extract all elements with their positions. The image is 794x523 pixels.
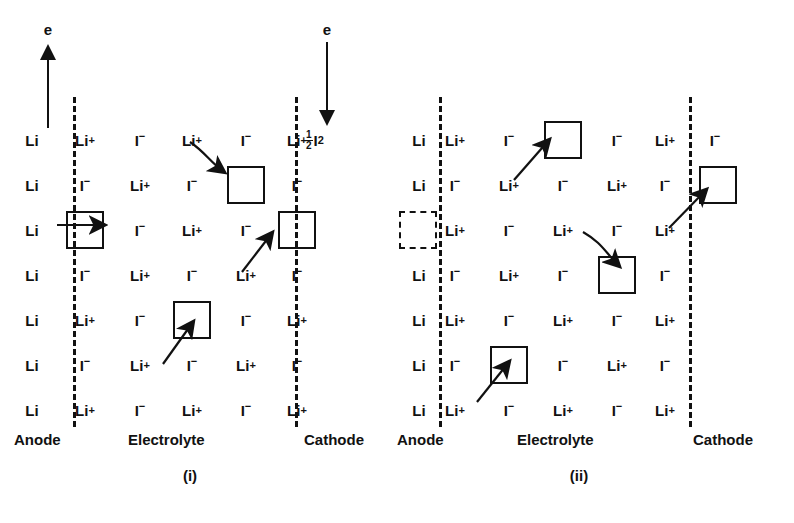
iodide-ion: I− xyxy=(595,388,639,432)
lithium-ion: Li+ xyxy=(433,208,477,252)
anode-lithium-atom: Li xyxy=(10,343,54,387)
lithium-ion: Li+ xyxy=(118,343,162,387)
panel-caption-i: (i) xyxy=(160,468,220,483)
iodide-ion: I− xyxy=(643,343,687,387)
anode-lithium-atom: Li xyxy=(10,298,54,342)
anode-vacancy-box xyxy=(399,211,437,249)
iodide-ion: I− xyxy=(118,118,162,162)
lithium-ion: Li+ xyxy=(595,343,639,387)
lithium-ion: Li+ xyxy=(487,253,531,297)
iodide-ion: I− xyxy=(224,208,268,252)
iodide-ion: I− xyxy=(487,388,531,432)
cathode-iodide-ion: I− xyxy=(693,118,737,162)
electrolyte-cathode-boundary-ii xyxy=(689,97,692,427)
lithium-ion: Li+ xyxy=(541,298,585,342)
lithium-ion: Li+ xyxy=(118,163,162,207)
iodide-ion: I− xyxy=(541,253,585,297)
anode-lithium-atom: Li xyxy=(10,118,54,162)
anode-lithium-atom: Li xyxy=(10,388,54,432)
lithium-ion: Li+ xyxy=(487,163,531,207)
iodide-ion: I− xyxy=(595,298,639,342)
electron-arrow-anode-i: e xyxy=(28,22,68,132)
lithium-ion: Li+ xyxy=(170,208,214,252)
lithium-ion: Li+ xyxy=(275,388,319,432)
anode-lithium-atom: Li xyxy=(10,253,54,297)
iodide-ion: I− xyxy=(63,163,107,207)
cathode-vacancy-box xyxy=(699,166,737,204)
vacancy-box xyxy=(278,211,316,249)
anode-lithium-atom: Li xyxy=(10,208,54,252)
region-label-cathode-ii: Cathode xyxy=(693,432,753,447)
region-label-anode-ii: Anode xyxy=(397,432,444,447)
electron-label-anode-i: e xyxy=(28,22,68,37)
region-label-cathode-i: Cathode xyxy=(304,432,364,447)
lithium-ion: Li+ xyxy=(275,298,319,342)
iodide-ion: I− xyxy=(224,298,268,342)
lithium-ion: Li+ xyxy=(224,253,268,297)
region-label-electrolyte-i: Electrolyte xyxy=(128,432,205,447)
lithium-ion: Li+ xyxy=(643,118,687,162)
iodide-ion: I− xyxy=(118,208,162,252)
iodide-ion: I− xyxy=(118,388,162,432)
iodide-ion: I− xyxy=(595,208,639,252)
lithium-ion: Li+ xyxy=(170,388,214,432)
lithium-ion: Li+ xyxy=(643,298,687,342)
iodide-ion: I− xyxy=(487,298,531,342)
panel-caption-ii: (ii) xyxy=(549,468,609,483)
lithium-ion: Li+ xyxy=(63,388,107,432)
iodide-ion: I− xyxy=(170,253,214,297)
lithium-ion: Li+ xyxy=(595,163,639,207)
panel-diagram-i: e e LiLi+I−Li+I−Li+LiI−Li+I−I−LiI−Li+I−L… xyxy=(0,0,397,523)
iodide-ion: I− xyxy=(224,118,268,162)
lithium-ion: Li+ xyxy=(118,253,162,297)
iodide-ion: I− xyxy=(170,163,214,207)
lithium-ion: Li+ xyxy=(63,118,107,162)
lithium-ion: Li+ xyxy=(643,208,687,252)
iodide-ion: I− xyxy=(63,253,107,297)
iodide-ion: I− xyxy=(170,343,214,387)
iodide-ion: I− xyxy=(643,163,687,207)
iodide-ion: I− xyxy=(275,253,319,297)
lithium-ion: Li+ xyxy=(63,298,107,342)
iodide-ion: I− xyxy=(275,163,319,207)
vacancy-box xyxy=(490,346,528,384)
iodide-ion: I− xyxy=(643,253,687,297)
lithium-ion: Li+ xyxy=(433,388,477,432)
lithium-ion: Li+ xyxy=(170,118,214,162)
region-label-electrolyte-ii: Electrolyte xyxy=(517,432,594,447)
iodide-ion: I− xyxy=(541,163,585,207)
electron-label-cathode-i: e xyxy=(307,22,347,37)
lithium-ion: Li+ xyxy=(433,298,477,342)
vacancy-box xyxy=(227,166,265,204)
lithium-ion: Li+ xyxy=(541,208,585,252)
iodide-ion: I− xyxy=(541,343,585,387)
vacancy-box xyxy=(544,121,582,159)
iodide-ion: I− xyxy=(433,163,477,207)
panel-diagram-ii: LiLi+I−I−Li+I−LiI−Li+I−Li+I−Li+I−Li+I−Li… xyxy=(397,0,794,523)
iodide-ion: I− xyxy=(487,118,531,162)
iodide-ion: I− xyxy=(433,343,477,387)
iodide-ion: I− xyxy=(118,298,162,342)
iodide-ion: I− xyxy=(224,388,268,432)
cathode-iodine-species: 12I2 xyxy=(305,118,361,162)
lithium-ion: Li+ xyxy=(541,388,585,432)
lithium-ion: Li+ xyxy=(433,118,477,162)
iodide-ion: I− xyxy=(275,343,319,387)
iodide-ion: I− xyxy=(595,118,639,162)
electron-arrow-head-i xyxy=(40,44,56,60)
vacancy-box xyxy=(173,301,211,339)
electron-arrow-cathode-i: e xyxy=(307,22,347,132)
anode-lithium-atom: Li xyxy=(10,163,54,207)
vacancy-box xyxy=(598,256,636,294)
region-label-anode-i: Anode xyxy=(14,432,61,447)
iodide-ion: I− xyxy=(63,343,107,387)
lithium-ion: Li+ xyxy=(224,343,268,387)
lithium-ion: Li+ xyxy=(643,388,687,432)
iodide-ion: I− xyxy=(433,253,477,297)
iodide-ion: I− xyxy=(487,208,531,252)
vacancy-box xyxy=(66,211,104,249)
electron-arrow-shaft-cathode-i xyxy=(326,42,328,112)
